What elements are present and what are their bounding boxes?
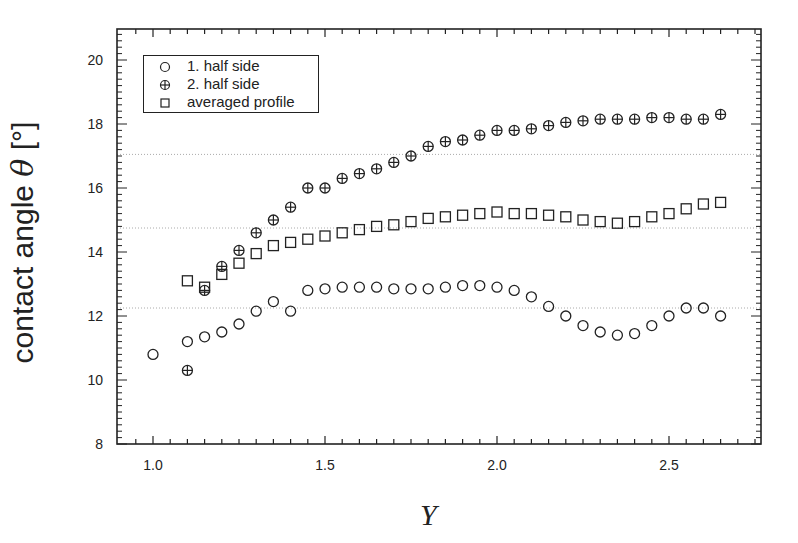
legend-label: averaged profile [187, 93, 295, 111]
data-point [320, 284, 330, 294]
data-point [320, 183, 330, 193]
data-point [320, 231, 330, 241]
data-point [716, 109, 726, 119]
data-point [526, 124, 536, 134]
data-point [647, 321, 657, 331]
data-point [354, 282, 364, 292]
data-point [526, 209, 536, 219]
legend-label: 1. half side [187, 57, 260, 75]
data-point [406, 151, 416, 161]
y-axis-label-text: contact angle [6, 177, 39, 364]
data-point [440, 137, 450, 147]
data-point [234, 245, 244, 255]
x-tick-label: 2.5 [659, 457, 679, 473]
y-tick-label: 12 [87, 308, 103, 324]
y-tick-label: 14 [87, 244, 103, 260]
data-point [303, 234, 313, 244]
scatter-plot: 81012141618201.01.52.02.5 [0, 0, 798, 543]
y-tick-label: 18 [87, 116, 103, 132]
open-circle-icon [158, 60, 172, 74]
data-point [286, 306, 296, 316]
data-point [475, 209, 485, 219]
data-point [544, 301, 554, 311]
data-point [509, 209, 519, 219]
data-point [440, 212, 450, 222]
data-point [251, 249, 261, 259]
x-axis-label: Y [420, 498, 437, 532]
data-point [423, 213, 433, 223]
data-point [217, 327, 227, 337]
y-axis-label-unit: [°] [6, 122, 39, 159]
series-crossed-circle [182, 109, 725, 375]
x-tick-label: 1.5 [315, 457, 335, 473]
data-point [578, 116, 588, 126]
data-points [148, 109, 726, 375]
y-axis-label: contact angle θ [°] [5, 113, 40, 373]
data-point [148, 349, 158, 359]
data-point [337, 228, 347, 238]
data-point [200, 285, 210, 295]
data-point [595, 114, 605, 124]
data-point [354, 225, 364, 235]
data-point [492, 282, 502, 292]
crossed-circle-icon [158, 78, 172, 92]
data-point [698, 199, 708, 209]
data-point [595, 217, 605, 227]
data-point [423, 284, 433, 294]
data-point [286, 202, 296, 212]
legend: 1. half side 2. half side averaged profi… [143, 55, 319, 113]
data-point [406, 217, 416, 227]
x-tick-label: 2.0 [487, 457, 507, 473]
data-point [372, 221, 382, 231]
data-point [475, 130, 485, 140]
data-point [544, 210, 554, 220]
data-point [182, 365, 192, 375]
open-square-icon [158, 96, 172, 110]
data-point [458, 210, 468, 220]
data-point [389, 157, 399, 167]
data-point [664, 311, 674, 321]
series-open-circle [148, 281, 726, 360]
data-point [681, 114, 691, 124]
data-point [182, 337, 192, 347]
data-point [630, 114, 640, 124]
data-point [698, 114, 708, 124]
data-point [251, 306, 261, 316]
data-point [630, 217, 640, 227]
data-point [492, 207, 502, 217]
data-point [612, 218, 622, 228]
data-point [354, 169, 364, 179]
data-point [716, 311, 726, 321]
data-point [268, 241, 278, 251]
data-point [389, 284, 399, 294]
y-axis-label-symbol: θ [5, 159, 40, 177]
data-point [681, 303, 691, 313]
data-point [440, 282, 450, 292]
y-tick-label: 10 [87, 372, 103, 388]
data-point [234, 319, 244, 329]
data-point [200, 332, 210, 342]
data-point [509, 125, 519, 135]
data-point [578, 321, 588, 331]
data-point [372, 164, 382, 174]
data-point [561, 212, 571, 222]
x-tick-label: 1.0 [143, 457, 163, 473]
data-point [647, 212, 657, 222]
data-point [475, 281, 485, 291]
reference-lines [117, 154, 761, 308]
data-point [234, 258, 244, 268]
tick-labels: 81012141618201.01.52.02.5 [87, 52, 679, 473]
data-point [612, 114, 622, 124]
data-point [681, 204, 691, 214]
data-point [509, 285, 519, 295]
data-point [630, 329, 640, 339]
data-point [578, 215, 588, 225]
data-point [423, 141, 433, 151]
data-point [458, 281, 468, 291]
data-point [372, 282, 382, 292]
series-open-square [182, 197, 725, 292]
data-point [561, 311, 571, 321]
data-point [303, 285, 313, 295]
data-point [647, 113, 657, 123]
y-tick-label: 20 [87, 52, 103, 68]
